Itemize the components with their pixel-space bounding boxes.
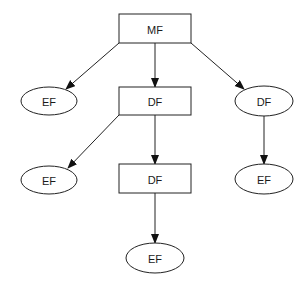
node-mf: MF (119, 14, 191, 43)
edge-arrow-df_mid1-to-ef_l2 (68, 115, 119, 168)
node-label: EF (42, 175, 56, 187)
node-ef_r2: EF (235, 164, 293, 194)
nodes-layer: MFEFDFDFEFDFEFEF (21, 14, 293, 273)
edges-layer (66, 43, 264, 243)
node-df_mid2: DF (119, 164, 191, 193)
node-label: EF (42, 96, 56, 108)
diagram-canvas: MFEFDFDFEFDFEFEF (0, 0, 307, 287)
node-df_r1: DF (235, 86, 293, 116)
node-label: DF (148, 174, 163, 186)
tree-diagram: MFEFDFDFEFDFEFEF (0, 0, 307, 287)
node-df_mid1: DF (119, 87, 191, 115)
node-ef_bot: EF (126, 243, 184, 273)
edge-arrow-mf-to-df_r1 (191, 43, 244, 89)
node-label: EF (257, 174, 271, 186)
node-label: EF (148, 253, 162, 265)
node-label: DF (148, 96, 163, 108)
node-label: MF (147, 24, 163, 36)
node-label: DF (257, 96, 272, 108)
node-ef_l2: EF (21, 166, 77, 194)
edge-arrow-mf-to-ef_l1 (66, 43, 119, 89)
node-ef_l1: EF (21, 87, 77, 115)
